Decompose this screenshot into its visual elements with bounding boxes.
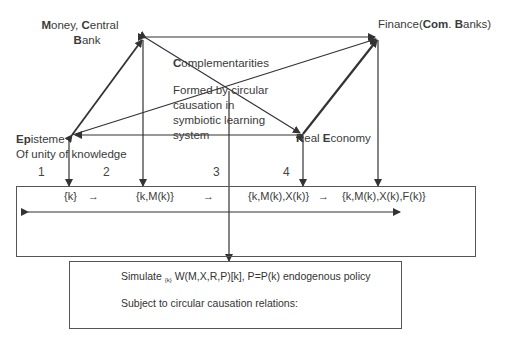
economy-text: conomy <box>331 132 371 144</box>
state-k: {k} <box>64 190 77 202</box>
realeconomy-finance-arrow <box>303 40 377 134</box>
complementarities-desc-line: system <box>173 128 269 143</box>
banks-initial: B <box>455 18 463 30</box>
bank-text: ank <box>82 34 101 46</box>
state-k-m-x: {k,M(k),X(k)} <box>248 190 309 202</box>
state-k-m: {k,M(k)} <box>136 190 174 202</box>
bank-initial: B <box>74 34 82 46</box>
simulate-line: Simulate {k} W(M,X,R,P)[k], P=P(k) endog… <box>121 270 371 283</box>
real-text: eal <box>304 132 323 144</box>
central-initial: C <box>81 19 89 31</box>
complementarities-desc-line: causation in <box>173 98 269 113</box>
economy-initial: E <box>323 132 331 144</box>
simulate-formula: W(M,X,R,P)[k], P=P(k) endogenous policy <box>172 270 371 282</box>
stage-number-2: 2 <box>103 165 110 179</box>
node-finance: Finance(Com. Banks) <box>378 17 491 32</box>
banks-text: anks) <box>463 18 491 30</box>
episteme-text: isteme <box>31 133 65 145</box>
stage-number-1: 1 <box>38 165 45 179</box>
state-arrow-2: → <box>203 190 214 202</box>
state-k-m-x-f: {k,M(k),X(k),F(k)} <box>342 190 426 202</box>
episteme-initial: Ep <box>16 133 31 145</box>
stage-number-4: 4 <box>283 165 290 179</box>
complementarities-title: omplementarities <box>181 57 269 69</box>
simulate-subscript: {k} <box>165 277 172 283</box>
state-arrow-3: → <box>318 190 329 202</box>
finance-text: Finance( <box>378 18 423 30</box>
stage-number-3: 3 <box>213 165 220 179</box>
node-episteme: Episteme Of unity of knowledge <box>16 132 127 162</box>
com-text: Com <box>423 18 449 30</box>
episteme-subtitle: Of unity of knowledge <box>16 147 127 162</box>
node-complementarities: Complementarities Formed by circular cau… <box>173 56 269 143</box>
complementarities-desc-line: symbiotic learning <box>173 113 269 128</box>
money-initial: M <box>41 19 51 31</box>
node-money-central-bank: Money, Central Bank <box>40 18 120 48</box>
node-real-economy: Real Economy <box>296 131 371 146</box>
subject-to-line: Subject to circular causation relations: <box>121 297 298 309</box>
money-text: oney, <box>51 19 81 31</box>
central-text: entral <box>90 19 119 31</box>
episteme-money-arrow <box>72 40 142 135</box>
complementarities-desc-line: Formed by circular <box>173 83 269 98</box>
simulate-prefix: Simulate <box>121 270 165 282</box>
state-arrow-1: → <box>88 190 99 202</box>
